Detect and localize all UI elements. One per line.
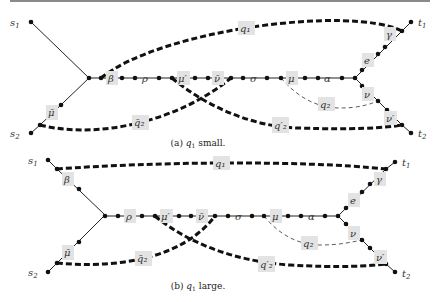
label-sigma: σ bbox=[235, 211, 243, 222]
terminal-s2: s2 bbox=[28, 267, 38, 280]
terminal-t1: t1 bbox=[402, 157, 411, 170]
label-q2: q₂ bbox=[303, 238, 313, 249]
terminal-s2: s2 bbox=[10, 128, 20, 141]
caption-a: (a) q1 small. bbox=[171, 138, 226, 149]
terminal-s1: s1 bbox=[10, 17, 20, 30]
terminal-t2: t2 bbox=[402, 268, 411, 281]
label-nu-bar: ν̄ bbox=[198, 211, 204, 222]
label-sigma: σ bbox=[250, 73, 258, 84]
terminal-s1: s1 bbox=[28, 155, 38, 168]
label-q2-prime: q′₂ bbox=[260, 259, 273, 270]
label-q1: q₁ bbox=[240, 23, 250, 34]
terminal-t1: t1 bbox=[418, 17, 427, 30]
label-nu: ν bbox=[364, 89, 370, 100]
terminal-t2: t2 bbox=[418, 128, 427, 141]
label-mu-prime: μ′ bbox=[178, 73, 187, 84]
label-alpha: α bbox=[324, 73, 331, 84]
label-mu-bar: μ̄ bbox=[48, 107, 55, 118]
label-alpha: α bbox=[308, 211, 315, 222]
label-nu-prime: ν′ bbox=[376, 252, 385, 263]
label-nu: ν bbox=[350, 228, 356, 239]
label-mu: μ bbox=[288, 73, 295, 84]
label-mu: μ bbox=[272, 211, 279, 222]
label-rho: ρ bbox=[125, 211, 132, 222]
label-nu-bar: ν̄ bbox=[214, 73, 220, 84]
label-beta: β bbox=[63, 174, 70, 185]
caption-b: (b) q1 large. bbox=[171, 281, 226, 292]
label-beta: β bbox=[107, 73, 114, 84]
label-mu-bar: μ̄ bbox=[64, 247, 71, 258]
label-q1: q₁ bbox=[215, 158, 225, 169]
label-gamma: γ bbox=[386, 29, 392, 40]
label-mu-prime: μ′ bbox=[161, 211, 170, 222]
diagram-canvas: s1 s2 t1 t2 β ρ μ′ ν̄ σ μ α e γ ν ν′ μ̄ … bbox=[0, 0, 439, 302]
label-gamma: γ bbox=[376, 174, 382, 185]
label-q2-prime: q′₂ bbox=[274, 120, 287, 131]
label-e: e bbox=[364, 55, 370, 66]
panel-a: s1 s2 t1 t2 β ρ μ′ ν̄ σ μ α e γ ν ν′ μ̄ … bbox=[10, 17, 427, 149]
label-e: e bbox=[350, 195, 356, 206]
label-rho: ρ bbox=[141, 73, 148, 84]
label-q2: q₂ bbox=[320, 99, 330, 110]
edge-s1-junction bbox=[31, 22, 89, 78]
panel-b: s1 s2 t1 t2 β ρ μ′ ν̄ σ μ α e γ ν ν′ μ̄ … bbox=[28, 155, 411, 292]
label-q2-bar: q̄₂ bbox=[134, 117, 144, 128]
label-q2-bar: q̄₂ bbox=[137, 253, 147, 264]
label-nu-prime: ν′ bbox=[386, 113, 395, 124]
